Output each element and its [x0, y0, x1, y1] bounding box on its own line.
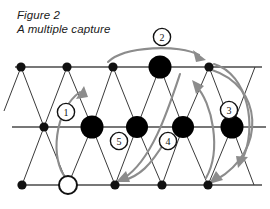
node-mid-captured-piece-3[interactable]	[172, 116, 194, 138]
node-bottom-left-vertex[interactable]	[17, 180, 26, 189]
move-label-5-text: 5	[117, 136, 122, 147]
figure-container: Figure 2 A multiple capture	[0, 0, 270, 209]
node-bottom-vertex-5[interactable]	[203, 180, 212, 189]
lattice-diag-tl-0	[4, 67, 21, 111]
node-mid-left-vertex[interactable]	[39, 122, 48, 131]
lattice-diag-bl-1	[22, 127, 44, 185]
node-mid-captured-piece-4[interactable]	[221, 116, 244, 139]
node-mid-captured-piece-2[interactable]	[126, 116, 148, 138]
move-label-2: 2	[153, 28, 170, 45]
node-top-vertex-2[interactable]	[62, 62, 71, 71]
move-label-1-text: 1	[64, 107, 69, 118]
move-label-2-text: 2	[160, 32, 165, 43]
move-label-3-text: 3	[227, 105, 232, 116]
capture-diagram: 1 2 3 4 5	[0, 0, 270, 209]
node-bottom-vertex-4[interactable]	[157, 180, 166, 189]
move-label-3: 3	[220, 101, 237, 118]
move-label-5: 5	[110, 132, 127, 149]
move-label-4-text: 4	[166, 136, 171, 147]
node-top-right-vertex[interactable]	[204, 62, 213, 71]
node-mid-captured-piece-1[interactable]	[81, 116, 104, 139]
node-top-vertex-3[interactable]	[108, 62, 117, 71]
node-bottom-vertex-3[interactable]	[110, 180, 119, 189]
node-moving-piece-start[interactable]	[59, 176, 77, 194]
lattice-diag-tr-1	[21, 67, 44, 127]
move-label-4: 4	[159, 132, 176, 149]
capture-arrow-2-head	[193, 50, 206, 62]
node-top-captured-piece[interactable]	[149, 56, 172, 79]
node-top-left-vertex[interactable]	[16, 62, 25, 71]
move-label-1: 1	[57, 103, 74, 120]
